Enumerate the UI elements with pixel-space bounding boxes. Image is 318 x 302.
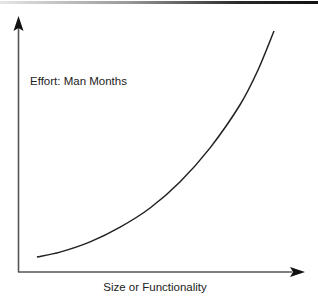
x-axis-label: Size or Functionality — [0, 281, 310, 293]
x-axis-arrow-icon — [290, 267, 305, 277]
y-axis-label: Effort: Man Months — [30, 75, 127, 87]
effort-curve — [37, 31, 274, 257]
chart-canvas — [0, 0, 318, 302]
